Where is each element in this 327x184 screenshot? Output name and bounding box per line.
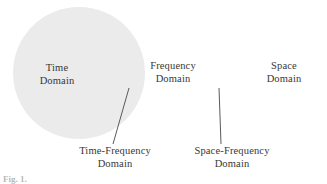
label-space-domain-line2: Domain [252, 73, 316, 86]
label-time-domain-line1: Time [46, 62, 68, 73]
space-frequency-leader-line [219, 88, 221, 144]
label-time-domain: Time Domain [26, 62, 88, 87]
label-frequency-domain-line2: Domain [137, 73, 209, 86]
label-time-frequency-domain-line2: Domain [62, 158, 168, 171]
space-frequency-overlap-lens [220, 33, 234, 113]
label-time-domain-line2: Domain [26, 75, 88, 88]
label-space-domain: Space Domain [252, 60, 316, 85]
label-space-frequency-domain-line2: Domain [177, 158, 287, 171]
label-space-domain-line1: Space [271, 60, 297, 71]
label-frequency-domain-line1: Frequency [150, 60, 196, 71]
venn-domain-figure: Time Domain Frequency Domain Space Domai… [0, 0, 327, 184]
space-frequency-overlap-lens-soft [220, 38, 237, 122]
label-space-frequency-domain-line1: Space-Frequency [194, 145, 269, 156]
figure-caption: Fig. 1. [3, 174, 153, 184]
label-time-frequency-domain-line1: Time-Frequency [79, 145, 151, 156]
label-frequency-domain: Frequency Domain [137, 60, 209, 85]
label-time-frequency-domain: Time-Frequency Domain [62, 145, 168, 170]
label-space-frequency-domain: Space-Frequency Domain [177, 145, 287, 170]
